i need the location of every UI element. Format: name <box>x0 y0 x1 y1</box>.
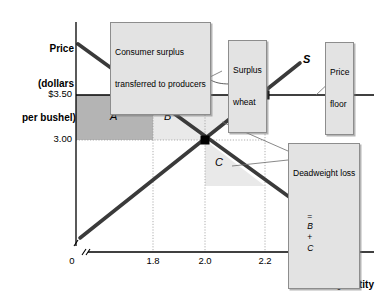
point-equilibrium <box>201 136 210 145</box>
deadweight-equals: = <box>307 211 312 221</box>
callout-deadweight-line2: = B + C <box>293 200 355 264</box>
deadweight-c: C <box>307 243 313 253</box>
supply-curve-label: S <box>303 53 310 66</box>
y-axis-title-line3: per bushel) <box>22 112 74 124</box>
callout-price-floor-line1: Price <box>330 67 349 78</box>
callout-surplus-wheat: Surplus wheat <box>228 40 267 133</box>
x-tick-label-20: 2.0 <box>194 256 216 267</box>
callout-price-floor: Price floor <box>325 42 354 135</box>
x-tick-label-18: 1.8 <box>142 256 164 267</box>
callout-price-floor-line2: floor <box>330 99 349 110</box>
x-tick-label-0: 0 <box>62 256 82 267</box>
callout-deadweight-line1: Deadweight loss <box>293 168 355 179</box>
callout-consumer-surplus: Consumer surplus transferred to producer… <box>110 22 211 115</box>
callout-consumer-surplus-line2: transferred to producers <box>115 79 206 90</box>
callout-surplus-wheat-line2: wheat <box>233 97 262 108</box>
region-c-shape <box>205 140 265 186</box>
y-tick-label-300: 3.00 <box>28 134 72 145</box>
deadweight-b: B <box>307 221 313 231</box>
y-axis-title-line1: Price <box>22 43 74 55</box>
callout-surplus-wheat-line1: Surplus <box>233 65 262 76</box>
y-tick-label-350: $3.50 <box>28 89 72 100</box>
callout-consumer-surplus-line1: Consumer surplus <box>115 47 206 58</box>
deadweight-plus: + <box>307 232 312 242</box>
supply-demand-price-floor-figure: Price (dollars per bushel) $3.50 3.00 0 … <box>0 0 382 300</box>
y-axis-title: Price (dollars per bushel) <box>22 20 74 147</box>
region-c-label: C <box>215 156 223 169</box>
callout-deadweight-loss: Deadweight loss = B + C <box>288 143 360 289</box>
